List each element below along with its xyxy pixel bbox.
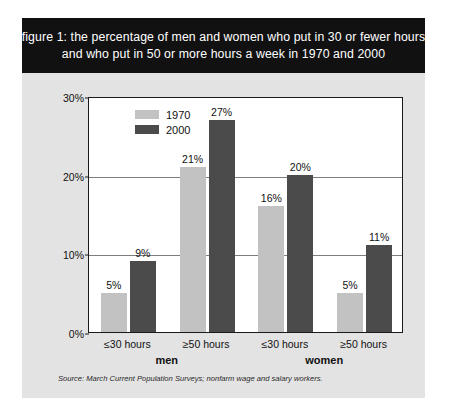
- bar-value-label: 27%: [211, 106, 232, 118]
- figure-title-line-1: figure 1: the percentage of men and wome…: [22, 29, 425, 46]
- bar: [101, 293, 127, 332]
- bar-value-label: 5%: [343, 279, 358, 291]
- bar-value-label: 9%: [135, 247, 150, 259]
- y-tick-label: 30%: [63, 92, 84, 104]
- y-tick-label: 20%: [63, 171, 84, 183]
- bar: [337, 293, 363, 332]
- x-tick-label: ≤30 hours: [104, 338, 151, 350]
- bar-value-label: 20%: [290, 161, 311, 173]
- bar: [287, 175, 313, 332]
- bar: [130, 261, 156, 332]
- x-group-label: women: [305, 354, 343, 366]
- figure-title-banner: figure 1: the percentage of men and wome…: [22, 18, 425, 73]
- legend-item-2000: 2000: [135, 122, 190, 137]
- source-note: Source: March Current Population Surveys…: [58, 374, 323, 383]
- figure-title-line-2: and who put in 50 or more hours a week i…: [62, 46, 385, 63]
- plot-area: 0%10%20%30% 5%9%21%27%16%20%5%11% 1970 2…: [88, 97, 403, 333]
- legend-label-1970: 1970: [166, 109, 190, 121]
- bar: [180, 167, 206, 332]
- legend: 1970 2000: [135, 107, 190, 137]
- legend-label-2000: 2000: [166, 124, 190, 136]
- bar: [209, 120, 235, 332]
- legend-item-1970: 1970: [135, 107, 190, 122]
- figure-container: figure 1: the percentage of men and wome…: [0, 0, 450, 412]
- legend-swatch-2000: [135, 125, 159, 134]
- legend-swatch-1970: [135, 110, 159, 119]
- bar-value-label: 21%: [182, 153, 203, 165]
- bar-value-label: 11%: [369, 231, 389, 243]
- y-tick-label: 0%: [69, 328, 84, 340]
- x-tick-label: ≥50 hours: [183, 338, 230, 350]
- bar-value-label: 16%: [261, 192, 282, 204]
- bar: [258, 206, 284, 332]
- x-tick-label: ≤30 hours: [262, 338, 309, 350]
- y-tick-label: 10%: [63, 249, 84, 261]
- bar-value-label: 5%: [106, 279, 121, 291]
- chart-panel: percentage of all workers 0%10%20%30% 5%…: [22, 73, 425, 398]
- x-tick-label: ≥50 hours: [340, 338, 387, 350]
- bar: [366, 245, 392, 332]
- y-tick-mark: [85, 334, 89, 335]
- x-group-label: men: [155, 354, 178, 366]
